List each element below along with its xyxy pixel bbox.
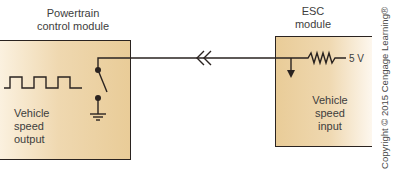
copyright-text: Copyright © 2015 Cengage Learning® — [379, 7, 390, 169]
ground-icon — [90, 114, 106, 120]
signal-wire — [98, 58, 275, 70]
resistor-icon — [275, 53, 346, 63]
down-arrow-icon — [287, 70, 295, 78]
switch-contact-bottom-icon — [95, 95, 101, 101]
switch-blade-icon — [98, 70, 107, 92]
square-wave-icon — [4, 77, 82, 88]
switch-contact-top-icon — [95, 67, 101, 73]
circuit-schematic — [0, 0, 395, 171]
